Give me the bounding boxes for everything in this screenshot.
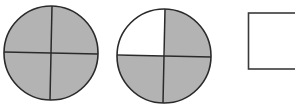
fraction-diagram: [0, 0, 295, 104]
answer-box-rect: [249, 13, 296, 69]
answer-box: [249, 13, 296, 69]
fraction-circle-1: [4, 6, 98, 100]
fraction-circle-2: [117, 9, 211, 103]
